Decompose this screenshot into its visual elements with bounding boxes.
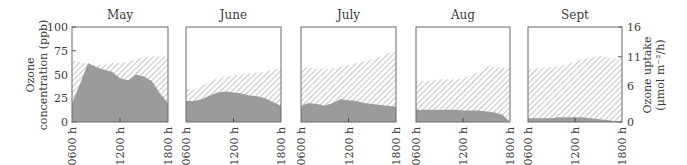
- panels: May0600 h1200 h1800 hJune0600 h1200 h180…: [66, 8, 629, 165]
- x-tick-label: 0600 h: [410, 127, 423, 165]
- x-tick-label: 1200 h: [569, 127, 582, 165]
- panel-title: July: [335, 8, 360, 22]
- x-tick-label: 1200 h: [343, 127, 356, 165]
- x-tick-label: 1200 h: [457, 127, 470, 165]
- left-tick-label: 25: [54, 92, 68, 105]
- left-axis-label: Ozone concentration (ppb): [24, 20, 50, 131]
- panel-title: June: [218, 8, 247, 22]
- right-axis-label-line2: (μmol m⁻²/h): [654, 39, 667, 110]
- x-tick-label: 1200 h: [114, 127, 127, 165]
- x-tick-label: 0600 h: [180, 127, 193, 165]
- right-tick-label: 6: [627, 80, 634, 93]
- left-tick-label: 50: [54, 69, 68, 82]
- panel-may: May0600 h1200 h1800 h: [66, 8, 175, 165]
- panel-june: June0600 h1200 h1800 h: [180, 8, 288, 165]
- left-tick-label: 100: [47, 21, 68, 34]
- x-tick-label: 1800 h: [504, 127, 517, 165]
- x-tick-label: 1200 h: [228, 127, 241, 165]
- left-tick-label: 75: [54, 45, 68, 58]
- panel-title: May: [107, 8, 133, 22]
- right-tick-label: 16: [627, 21, 641, 34]
- right-axis-label: Ozone uptake (μmol m⁻²/h): [641, 37, 667, 114]
- right-tick-label: 11: [627, 51, 641, 64]
- ozone-chart: Ozone concentration (ppb) Ozone uptake (…: [0, 0, 687, 165]
- left-axis-label-line2: concentration (ppb): [37, 20, 50, 131]
- panel-july: July0600 h1200 h1800 h: [295, 8, 403, 165]
- panel-sept: Sept0600 h1200 h1800 h: [522, 8, 629, 165]
- x-tick-label: 1800 h: [616, 127, 629, 165]
- panel-title: Sept: [561, 8, 589, 22]
- x-tick-label: 1800 h: [390, 127, 403, 165]
- concentration-area: [528, 56, 622, 123]
- x-tick-label: 0600 h: [522, 127, 535, 165]
- x-tick-label: 0600 h: [295, 127, 308, 165]
- right-axis-label-line1: Ozone uptake: [641, 37, 654, 114]
- x-tick-label: 1800 h: [275, 127, 288, 165]
- x-tick-label: 1800 h: [162, 127, 175, 165]
- panel-aug: Aug0600 h1200 h1800 h: [410, 8, 517, 165]
- x-tick-label: 0600 h: [66, 127, 79, 165]
- panel-title: Aug: [450, 8, 475, 22]
- left-axis-label-line1: Ozone: [24, 57, 37, 92]
